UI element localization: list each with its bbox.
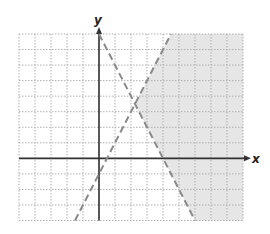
y-axis-arrow-icon [96,27,102,34]
inequality-graph: y x [0,0,270,234]
x-axis-arrow-icon [244,155,251,161]
x-axis-label: x [251,152,261,166]
y-axis-label: y [94,13,103,27]
